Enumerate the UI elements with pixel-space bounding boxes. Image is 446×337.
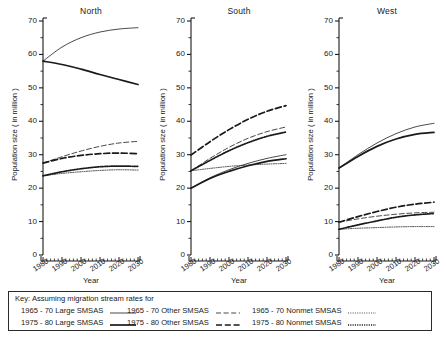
plot-area	[148, 0, 297, 290]
panel-north: NorthPopulation size ( in million )Year0…	[0, 0, 149, 290]
plot-area	[0, 0, 149, 290]
legend-label: 1975 - 80 Other SMSAS	[127, 318, 209, 327]
legend-row: 1965 - 70 Large SMSAS1965 - 70 Other SMS…	[9, 305, 433, 317]
series-line	[191, 155, 286, 188]
legend-label: 1975 - 80 Large SMSAS	[21, 318, 103, 327]
legend-title: Key: Assuming migration stream rates for	[15, 294, 154, 303]
series-line	[339, 123, 434, 168]
panel-south: SouthPopulation size ( in million )Year0…	[148, 0, 297, 290]
legend-row: 1975 - 80 Large SMSAS1975 - 80 Other SMS…	[9, 317, 433, 329]
legend-label: 1965 - 70 Nonmet SMSAS	[252, 306, 341, 315]
series-line	[43, 28, 138, 61]
legend-label: 1975 - 80 Nonmet SMSAS	[252, 318, 341, 327]
panel-west: WestPopulation size ( in million )Year01…	[296, 0, 445, 290]
series-line	[43, 61, 138, 84]
series-line	[191, 163, 286, 170]
figure: NorthPopulation size ( in million )Year0…	[0, 0, 446, 337]
legend-line-sample	[215, 322, 241, 328]
legend-label: 1965 - 70 Other SMSAS	[127, 306, 209, 315]
legend-line-sample	[347, 310, 377, 316]
legend-line-sample	[347, 322, 377, 328]
series-line	[339, 227, 434, 230]
legend-label: 1965 - 70 Large SMSAS	[21, 306, 103, 315]
series-line	[191, 132, 286, 171]
legend-box: Key: Assuming migration stream rates for…	[8, 291, 432, 331]
legend-line-sample	[215, 310, 241, 316]
panel-group: NorthPopulation size ( in million )Year0…	[0, 0, 446, 290]
plot-area	[296, 0, 445, 290]
